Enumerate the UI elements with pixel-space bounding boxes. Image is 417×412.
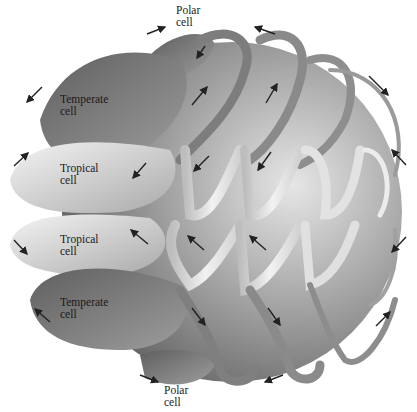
circulation-diagram (0, 0, 417, 412)
label-line: cell (60, 245, 99, 257)
label-line: Temperate (60, 296, 108, 308)
label-line: cell (60, 105, 108, 117)
arrow (147, 27, 165, 34)
label-tropical-cell-north: Tropical cell (60, 162, 99, 186)
label-temperate-cell-north: Temperate cell (60, 93, 108, 117)
label-line: Polar (176, 4, 200, 16)
label-line: cell (176, 16, 200, 28)
label-line: Tropical (60, 162, 99, 174)
label-line: Tropical (60, 233, 99, 245)
arrow (27, 87, 42, 102)
label-line: cell (60, 308, 108, 320)
label-line: cell (60, 174, 99, 186)
arrow (255, 27, 275, 34)
label-tropical-cell-south: Tropical cell (60, 233, 99, 257)
label-line: cell (164, 396, 188, 408)
label-polar-cell-bottom: Polar cell (164, 384, 188, 408)
label-temperate-cell-south: Temperate cell (60, 296, 108, 320)
label-polar-cell-top: Polar cell (176, 4, 200, 28)
label-line: Polar (164, 384, 188, 396)
label-line: Temperate (60, 93, 108, 105)
